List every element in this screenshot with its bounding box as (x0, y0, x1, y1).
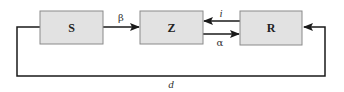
edge-i-label: i (219, 7, 222, 19)
node-r-label: R (267, 21, 276, 35)
node-s: S (40, 11, 103, 44)
edge-alpha-label: α (217, 37, 224, 48)
node-r: R (240, 11, 302, 45)
node-z: Z (140, 11, 203, 44)
node-s-label: S (68, 21, 75, 35)
node-z-label: Z (167, 21, 175, 35)
block-diagram: S Z R β i α d (0, 0, 344, 92)
edge-beta-label: β (118, 12, 124, 23)
edge-d-label: d (168, 78, 174, 90)
